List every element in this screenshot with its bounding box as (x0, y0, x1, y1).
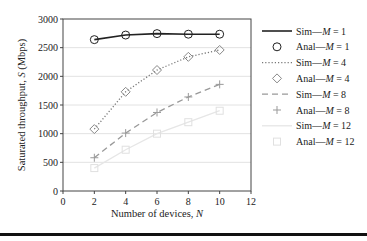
y-tick-label: 3000 (38, 14, 58, 25)
plus-marker-icon (273, 106, 281, 114)
legend-item: Sim—M = 12 (262, 120, 351, 131)
y-tick-label: 0 (53, 186, 58, 197)
x-tick-label: 0 (61, 196, 66, 207)
x-axis-title: Number of devices, N (111, 208, 204, 219)
series-0 (94, 34, 219, 40)
legend-label: Sim—M = 8 (296, 89, 346, 100)
data-series (90, 30, 224, 172)
legend-label: Sim—M = 12 (296, 120, 351, 131)
y-axis-title: Saturated throughput, S (Mbps) (16, 38, 28, 171)
y-tick-label: 500 (43, 157, 58, 168)
circle-marker-icon (273, 43, 281, 51)
x-tick-label: 4 (123, 196, 128, 207)
legend-item: Sim—M = 4 (262, 57, 346, 68)
diamond-marker-icon (273, 74, 282, 83)
diamond-marker-icon (215, 45, 224, 54)
y-tick-label: 2500 (38, 42, 58, 53)
series-line (94, 34, 219, 40)
x-tick-label: 2 (92, 196, 97, 207)
legend-label: Sim—M = 1 (296, 26, 346, 37)
series-4 (94, 84, 219, 157)
legend-item: Anal—M = 12 (274, 136, 355, 147)
y-tick-label: 1500 (38, 100, 58, 111)
series-6 (94, 111, 219, 168)
square-marker-icon (274, 138, 281, 145)
plus-marker-icon (153, 108, 161, 116)
legend-label: Anal—M = 1 (296, 41, 349, 52)
x-tick-label: 8 (186, 196, 191, 207)
x-tick-label: 6 (155, 196, 160, 207)
x-tick-label: 10 (215, 196, 225, 207)
series-5 (90, 80, 223, 161)
plus-marker-icon (216, 80, 224, 88)
legend-item: Sim—M = 8 (262, 89, 346, 100)
legend-label: Anal—M = 4 (296, 73, 349, 84)
axes (60, 19, 251, 194)
y-tick-label: 1000 (38, 128, 58, 139)
legend-label: Anal—M = 8 (296, 105, 349, 116)
legend-label: Sim—M = 4 (296, 57, 346, 68)
y-tick-label: 2000 (38, 71, 58, 82)
bottom-rule (0, 233, 367, 236)
legend-item: Sim—M = 1 (262, 26, 346, 37)
series-line (94, 111, 219, 168)
legend-label: Anal—M = 12 (296, 136, 354, 147)
plus-marker-icon (184, 93, 192, 101)
legend-item: Anal—M = 8 (273, 105, 349, 116)
legend-item: Anal—M = 4 (273, 73, 350, 84)
x-tick-label: 12 (246, 196, 256, 207)
legend: Sim—M = 1Anal—M = 1Sim—M = 4Anal—M = 4Si… (262, 26, 354, 148)
series-3 (90, 45, 224, 133)
throughput-chart: 050010001500200025003000024681012 Sim—M … (0, 0, 367, 241)
diamond-marker-icon (184, 52, 193, 61)
legend-item: Anal—M = 1 (273, 41, 349, 52)
series-line (94, 84, 219, 157)
